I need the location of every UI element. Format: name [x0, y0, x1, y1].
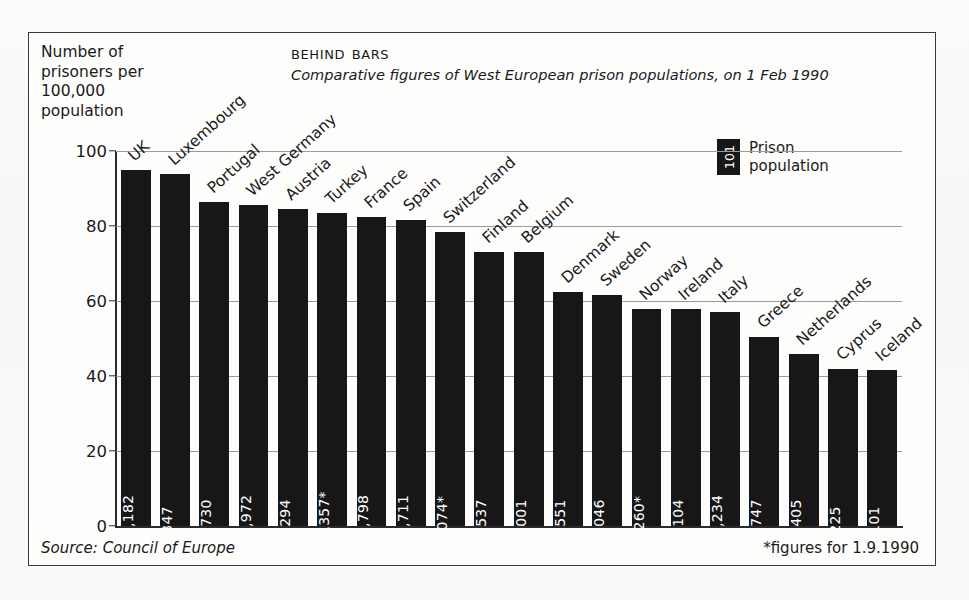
- y-axis-tick-label: 0: [97, 517, 108, 536]
- y-axis-tick-mark: [109, 225, 116, 226]
- bar-value-label: 51,972: [238, 495, 254, 545]
- bar[interactable]: 5,074*Switzerland: [435, 232, 465, 526]
- x-axis-line: [115, 526, 903, 528]
- bar-value-label: 6,294: [277, 499, 293, 540]
- bar-value-label: 53,182: [120, 495, 136, 545]
- bar-group: 46,798France: [352, 151, 391, 526]
- bar[interactable]: 101Iceland: [867, 370, 897, 526]
- y-axis-tick-label: 100: [76, 142, 108, 161]
- bar-value-label: 2,104: [670, 499, 686, 540]
- bar-value-label: 46,357*: [316, 491, 332, 548]
- bar[interactable]: 3,551Denmark: [553, 292, 583, 526]
- plot-area: 020406080100 53,182UK347Luxembourg8,730P…: [116, 151, 902, 526]
- bar-group: 2,104Ireland: [666, 151, 705, 526]
- bar-value-label: 5,074*: [434, 496, 450, 544]
- y-axis-tick-mark: [109, 450, 116, 451]
- bar-value-label: 3,551: [552, 499, 568, 540]
- page-title: Behind Bars: [291, 41, 829, 63]
- chart-frame: Number of prisoners per 100,000 populati…: [28, 32, 936, 566]
- bar-value-label: 31,234: [709, 495, 725, 545]
- bar-group: 5,046Sweden: [588, 151, 627, 526]
- bar-group: 6,405Netherlands: [784, 151, 823, 526]
- source-note: Source: Council of Europe: [41, 539, 235, 557]
- bar[interactable]: 2,260*Norway: [632, 309, 662, 527]
- figures-footnote: *figures for 1.9.1990: [763, 539, 919, 557]
- title-block: Behind Bars Comparative figures of West …: [291, 41, 829, 83]
- y-axis-tick-label: 40: [86, 367, 107, 386]
- y-axis-tick-mark: [109, 300, 116, 301]
- bar-group: 347Luxembourg: [155, 151, 194, 526]
- bar-value-label: 31,711: [395, 495, 411, 545]
- bar-value-label: 7,001: [513, 499, 529, 540]
- bar-group: 31,711Spain: [391, 151, 430, 526]
- bar-value-label: 101: [866, 506, 882, 533]
- bar-value-label: 46,798: [355, 495, 371, 545]
- y-axis-tick-mark: [109, 150, 116, 151]
- bar[interactable]: 31,234Italy: [710, 312, 740, 526]
- bar[interactable]: 46,357*Turkey: [317, 213, 347, 526]
- bar[interactable]: 347Luxembourg: [160, 174, 190, 527]
- bar[interactable]: 225Cyprus: [828, 369, 858, 527]
- y-axis-tick-label: 20: [86, 442, 107, 461]
- y-axis-tick-label: 80: [86, 217, 107, 236]
- bar-value-label: 4,747: [748, 499, 764, 540]
- x-axis-category-label: Iceland: [872, 315, 926, 366]
- bar-group: 7,001Belgium: [509, 151, 548, 526]
- bar[interactable]: 51,972West Germany: [239, 205, 269, 526]
- bar-value-label: 347: [159, 506, 175, 533]
- bar-group: 31,234Italy: [705, 151, 744, 526]
- bar[interactable]: 7,001Belgium: [514, 252, 544, 526]
- bar-group: 2,260*Norway: [627, 151, 666, 526]
- x-axis-category-label: UK: [125, 137, 153, 165]
- bar-value-label: 5,046: [591, 499, 607, 540]
- bar[interactable]: 8,730Portugal: [199, 202, 229, 526]
- bar-group: 6,294Austria: [273, 151, 312, 526]
- bar-group: 3,551Denmark: [548, 151, 587, 526]
- bar-group: 4,747Greece: [745, 151, 784, 526]
- bar[interactable]: 31,711Spain: [396, 220, 426, 526]
- bar-group: 5,074*Switzerland: [430, 151, 469, 526]
- y-axis-tick-label: 60: [86, 292, 107, 311]
- bar-series: 53,182UK347Luxembourg8,730Portugal51,972…: [116, 151, 902, 526]
- bar-group: 51,972West Germany: [234, 151, 273, 526]
- bar[interactable]: 53,182UK: [121, 170, 151, 526]
- bar-value-label: 6,405: [788, 499, 804, 540]
- chart-subtitle: Comparative figures of West European pri…: [291, 66, 829, 83]
- bar[interactable]: 2,104Ireland: [671, 309, 701, 527]
- bar[interactable]: 46,798France: [357, 217, 387, 526]
- bar-value-label: 8,730: [198, 499, 214, 540]
- y-axis-tick-mark: [109, 525, 116, 526]
- bar-value-label: 225: [827, 506, 843, 533]
- bar[interactable]: 6,294Austria: [278, 209, 308, 526]
- bar-group: 225Cyprus: [823, 151, 862, 526]
- y-axis-tick-mark: [109, 375, 116, 376]
- y-axis-caption: Number of prisoners per 100,000 populati…: [41, 43, 191, 121]
- bar-group: 8,730Portugal: [195, 151, 234, 526]
- bar-group: 46,357*Turkey: [312, 151, 351, 526]
- bar-value-label: 2,260*: [631, 496, 647, 544]
- bar-value-label: 3,537: [473, 499, 489, 540]
- bar[interactable]: 3,537Finland: [474, 252, 504, 526]
- bar[interactable]: 5,046Sweden: [592, 295, 622, 526]
- bar[interactable]: 6,405Netherlands: [789, 354, 819, 527]
- bar-group: 3,537Finland: [470, 151, 509, 526]
- bar[interactable]: 4,747Greece: [749, 337, 779, 526]
- bar-group: 101Iceland: [863, 151, 902, 526]
- bar-group: 53,182UK: [116, 151, 155, 526]
